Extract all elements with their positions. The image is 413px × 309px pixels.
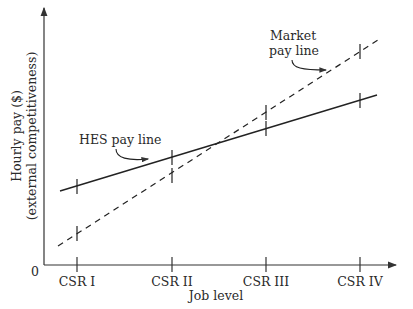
- x-tick-label-csr-iv: CSR IV: [337, 274, 383, 289]
- y-axis-title: Hourly pay ($): [9, 90, 24, 182]
- x-tick-label-csr-ii: CSR II: [151, 274, 192, 289]
- y-axis-subtitle: (external competitiveness): [24, 52, 39, 221]
- hes-annotation-arrow-icon: [116, 149, 148, 160]
- x-tick-label-csr-i: CSR I: [59, 274, 96, 289]
- x-tick-label-csr-iii: CSR III: [243, 274, 289, 289]
- market-annotation-label-line1: Market: [270, 28, 316, 43]
- pay-line-diagram: 0 CSR I CSR II CSR III CSR IV Job level …: [0, 0, 413, 309]
- market-annotation-arrow-icon: [292, 60, 326, 70]
- x-axis-title: Job level: [187, 288, 243, 303]
- origin-label: 0: [31, 264, 39, 279]
- market-annotation-label-line2: pay line: [269, 43, 319, 58]
- hes-annotation-label: HES pay line: [79, 132, 162, 147]
